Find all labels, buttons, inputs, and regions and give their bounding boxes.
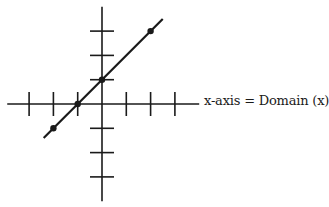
data-point	[99, 77, 105, 83]
data-point	[147, 28, 153, 34]
data-point	[50, 125, 56, 131]
x-axis-label: x-axis = Domain (x)	[204, 93, 329, 108]
data-point	[75, 101, 81, 107]
